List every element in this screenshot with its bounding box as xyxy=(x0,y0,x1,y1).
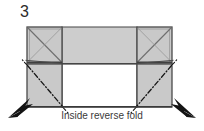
diagram-root: 3 xyxy=(0,0,204,131)
bottom-middle-panel xyxy=(62,64,137,107)
figure-caption: Inside reverse fold xyxy=(0,110,204,121)
top-middle-panel xyxy=(62,27,137,64)
